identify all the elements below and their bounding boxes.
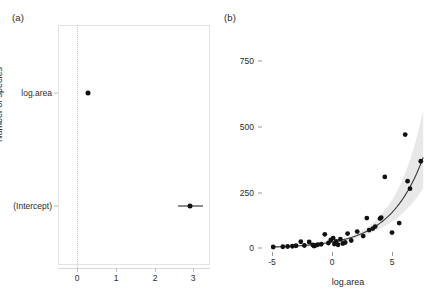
panel-b-scatter-plot: (b) Number of species 0 250 500 750 -5 0… bbox=[0, 0, 440, 299]
data-point bbox=[285, 244, 290, 249]
figure-container: (a) log.area (Intercept) 0 1 2 3 (b) Num… bbox=[0, 0, 440, 299]
data-point bbox=[397, 221, 402, 226]
data-point bbox=[349, 238, 354, 243]
data-point bbox=[408, 186, 413, 191]
confidence-band bbox=[272, 110, 423, 247]
data-point bbox=[322, 232, 327, 237]
data-point bbox=[405, 179, 410, 184]
data-point bbox=[364, 216, 369, 221]
data-point bbox=[294, 243, 299, 248]
data-point bbox=[403, 132, 408, 137]
data-point bbox=[302, 243, 307, 248]
data-point bbox=[343, 240, 348, 245]
data-point bbox=[298, 239, 303, 244]
data-point bbox=[338, 237, 343, 242]
data-point bbox=[361, 234, 366, 239]
data-point bbox=[336, 242, 341, 247]
data-point bbox=[373, 224, 378, 229]
data-point bbox=[390, 230, 395, 235]
data-point bbox=[280, 244, 285, 249]
data-point bbox=[271, 245, 276, 250]
data-point bbox=[418, 159, 423, 164]
data-point bbox=[379, 215, 384, 220]
data-point bbox=[319, 242, 324, 247]
data-point bbox=[345, 231, 350, 236]
data-point bbox=[382, 175, 387, 180]
panel-b-scatter-canvas bbox=[0, 0, 440, 299]
data-point bbox=[355, 229, 360, 234]
